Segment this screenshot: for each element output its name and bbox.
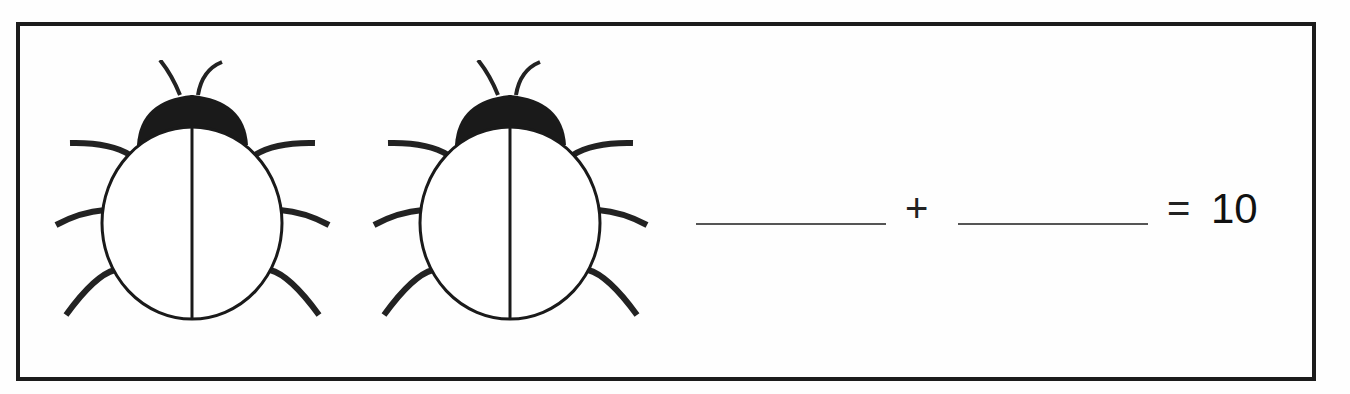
plus-sign: +	[905, 186, 928, 231]
ladybug-icon-1	[50, 60, 340, 330]
answer-blank-2[interactable]	[958, 223, 1148, 225]
ladybug-icon-2	[368, 60, 658, 330]
answer-blank-1[interactable]	[696, 223, 886, 225]
equation-total: 10	[1211, 185, 1258, 233]
equals-sign: =	[1167, 186, 1190, 231]
